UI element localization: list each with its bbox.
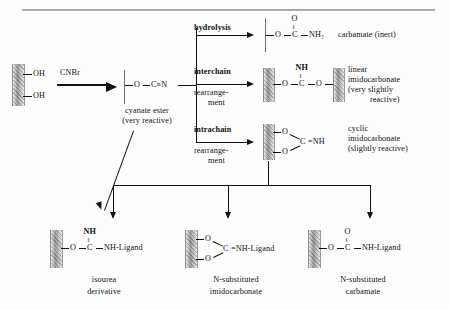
branch-1-arrow-shaft — [196, 35, 248, 36]
branch-2-condition-line1: interchain — [194, 67, 231, 77]
branch-2-arrow-shaft — [196, 84, 248, 85]
nsubcarb-o: O — [328, 243, 334, 253]
support-line-cyanate — [124, 70, 125, 104]
support-matrix-cyclic — [263, 124, 275, 160]
bond-cyanate-to-trunk — [178, 85, 196, 86]
nsubimido-nh-ligand: =NH-Ligand — [231, 244, 274, 254]
reagent-label: CNBr — [60, 68, 80, 78]
bond-cyclic-o-top-c — [290, 134, 300, 140]
reagent-arrow-shaft — [57, 84, 109, 86]
bond-nsubcarb-o-c — [337, 248, 344, 249]
start-group-1: OH — [33, 69, 45, 79]
linear-double-bond: ‖ — [300, 72, 302, 82]
nsubimido-c: C — [223, 244, 229, 254]
diagram-canvas: OH OH CNBr O C≡N cyanate ester (very rea… — [0, 0, 449, 310]
branch-2-arrow-head — [247, 81, 254, 87]
cyclic-o-bottom: O — [282, 147, 288, 157]
carbamate-double-bond: ‖ — [293, 23, 295, 33]
nsubimido-label-line2: imidocarbonate — [178, 287, 294, 297]
bond-cyclic-support-o-top — [273, 132, 281, 133]
bond-nsubcarb-support-o — [319, 248, 327, 249]
isourea-label-line1: isourea — [52, 275, 156, 285]
nsubcarb-label-line2: carbamate — [305, 287, 421, 297]
bus-leg-1-arrowhead — [110, 212, 116, 219]
bond-linear-right-support — [325, 84, 333, 85]
nsubimido-o-top: O — [205, 234, 211, 244]
carbamate-label: carbamate (inert) — [338, 30, 396, 40]
linear-nh-top: NH — [296, 63, 308, 73]
bus-horizontal — [113, 185, 371, 186]
support-matrix-nsub-carbamate — [308, 230, 321, 268]
bond-nsubimido-support-o-bottom — [196, 259, 204, 260]
bond-isourea-c-nh — [96, 248, 103, 249]
bond-linear-o-c — [291, 84, 298, 85]
support-matrix-isourea — [50, 230, 63, 268]
support-matrix-start — [12, 64, 25, 106]
cyclic-o-top: O — [282, 127, 288, 137]
branch-3-condition-line3: ment — [208, 156, 225, 166]
nsubcarb-double-bond: ‖ — [346, 236, 348, 246]
cyanate-label-line1: cyanate ester — [108, 106, 186, 116]
bond-carbamate-o-c — [284, 35, 291, 36]
bus-leg-2 — [228, 185, 229, 214]
isourea-label-line2: derivative — [52, 287, 156, 297]
bond-linear-left-support — [273, 84, 281, 85]
bond-cyanate-support-o — [125, 85, 133, 86]
linear-o-right: O — [316, 79, 322, 89]
bond-carbamate-c-nh2 — [301, 35, 308, 36]
cyclic-label-line1: cyclic — [348, 124, 368, 134]
cyclic-c: C — [300, 137, 306, 147]
linear-label-line2: imidocarbonate — [348, 75, 400, 85]
bond-nsubcarb-c-nh — [354, 248, 361, 249]
top-rule — [22, 9, 435, 11]
support-matrix-linear-right — [333, 68, 345, 102]
cyanate-o: O — [134, 80, 140, 90]
branch-2-condition-line2: rearrange- — [194, 88, 229, 98]
bond-nsubimido-o-bottom-c — [213, 252, 223, 258]
bond-cyanate-o-c — [143, 85, 150, 86]
bond-start-oh2 — [23, 96, 32, 97]
isourea-nh-top: NH — [84, 227, 96, 237]
nsubcarb-o-top: O — [345, 227, 351, 237]
nsubcarb-nh-ligand: NH-Ligand — [362, 243, 401, 253]
bond-nsubimido-support-o-top — [196, 239, 204, 240]
reagent-arrow-head — [106, 82, 117, 92]
linear-label-line4: reactive) — [370, 95, 400, 105]
bond-nsubimido-o-top-c — [213, 241, 223, 247]
diagonal-arrow-shaft — [104, 131, 134, 211]
bond-cyclic-support-o-bottom — [273, 152, 281, 153]
bond-carbamate-support-o — [266, 35, 274, 36]
bond-linear-c-o — [308, 84, 315, 85]
branch-3-arrow-shaft — [196, 142, 248, 143]
bus-drop-from-cyclic — [268, 161, 269, 185]
cyclic-nh: =NH — [308, 137, 325, 147]
cyanate-label-line2: (very reactive) — [108, 116, 186, 126]
nsubcarb-label-line1: N-substituted — [305, 275, 421, 285]
carbamate-o-left: O — [275, 30, 281, 40]
bond-start-oh1 — [23, 74, 32, 75]
branch-1-arrow-head — [247, 32, 254, 38]
branch-3-condition-line2: rearrange- — [194, 146, 229, 156]
carbamate-o-top: O — [292, 14, 298, 24]
linear-o-left: O — [282, 79, 288, 89]
isourea-o: O — [70, 243, 76, 253]
nsubimido-label-line1: N-substituted — [178, 275, 294, 285]
bond-isourea-o-c — [79, 248, 86, 249]
branch-3-condition-line1: intrachain — [194, 125, 231, 135]
linear-label-line3: (very slightly — [348, 85, 393, 95]
isourea-double-bond: ‖ — [88, 236, 90, 246]
carbamate-nh2: NH₂ — [309, 30, 324, 40]
branch-2-condition-line3: ment — [208, 98, 225, 108]
bus-leg-3 — [370, 185, 371, 214]
start-group-2: OH — [33, 91, 45, 101]
cyclic-label-line2: imidocarbonate — [348, 134, 400, 144]
bus-leg-1 — [113, 185, 114, 214]
bond-isourea-support-o — [61, 248, 69, 249]
bus-leg-3-arrowhead — [367, 212, 373, 219]
support-matrix-linear-left — [263, 68, 275, 102]
isourea-nh-ligand: NH-Ligand — [104, 243, 143, 253]
support-matrix-nsub-imido — [185, 230, 198, 268]
branch-3-arrow-head — [247, 139, 254, 145]
bus-leg-2-arrowhead — [225, 212, 231, 219]
bond-cyclic-o-bottom-c — [290, 145, 300, 151]
